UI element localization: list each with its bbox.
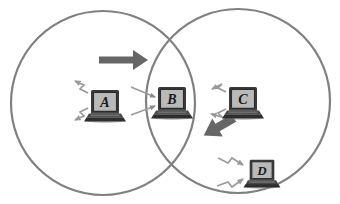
diagram-canvas: A B C D xyxy=(0,0,340,204)
signal-zigzag-a-upper xyxy=(75,81,88,93)
node-c-label: C xyxy=(238,92,248,107)
node-d[interactable]: D xyxy=(244,160,281,189)
signal-line-b-lower xyxy=(131,106,155,115)
signal-waves-node-c xyxy=(211,84,226,117)
signal-waves-node-b xyxy=(131,87,155,115)
signal-waves-node-a xyxy=(75,81,88,120)
node-c[interactable]: C xyxy=(222,87,264,120)
node-a[interactable]: A xyxy=(84,90,126,123)
venn-diagram: A B C D xyxy=(0,0,340,204)
signal-line-b-upper xyxy=(131,87,155,97)
node-b[interactable]: B xyxy=(151,87,193,120)
signal-zigzag-c-upper xyxy=(212,84,226,92)
handover-arrow-a-to-b xyxy=(99,50,148,70)
signal-waves-node-d xyxy=(217,158,243,187)
signal-zigzag-d-upper xyxy=(218,158,243,165)
signal-zigzag-a-lower xyxy=(75,108,88,120)
node-b-label: B xyxy=(166,92,176,107)
node-d-label: D xyxy=(256,163,267,178)
signal-zigzag-d-lower xyxy=(217,179,243,187)
node-a-label: A xyxy=(99,95,109,110)
